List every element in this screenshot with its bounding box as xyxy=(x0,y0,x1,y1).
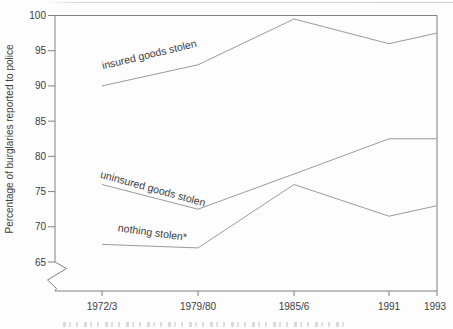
y-tick-label: 85 xyxy=(35,116,47,127)
y-tick-label: 65 xyxy=(35,257,47,268)
x-tick-label: 1991 xyxy=(378,301,401,312)
y-tick-label: 75 xyxy=(35,186,47,197)
y-tick-label: 90 xyxy=(35,80,47,91)
burglary-reporting-line-chart: 100959085807570651972/31979/801985/61991… xyxy=(0,0,453,329)
x-tick-label: 1985/6 xyxy=(279,301,310,312)
y-tick-label: 80 xyxy=(35,151,47,162)
y-axis-title: Percentage of burglaries reported to pol… xyxy=(4,44,15,233)
series-line-1 xyxy=(102,139,437,209)
y-tick-label: 100 xyxy=(29,10,46,21)
y-tick-label: 70 xyxy=(35,221,47,232)
y-axis-break xyxy=(48,262,67,291)
scanned-chart-page: 100959085807570651972/31979/801985/61991… xyxy=(0,0,453,329)
series-label-2: nothing stolen* xyxy=(117,221,187,243)
clipped-caption-fragment xyxy=(63,322,346,327)
series-label-0: insured goods stolen xyxy=(101,37,198,71)
x-tick-label: 1993 xyxy=(424,301,447,312)
y-tick-label: 95 xyxy=(35,45,47,56)
x-tick-label: 1979/80 xyxy=(180,301,217,312)
x-tick-label: 1972/3 xyxy=(87,301,118,312)
chart-canvas: 100959085807570651972/31979/801985/61991… xyxy=(0,0,453,329)
